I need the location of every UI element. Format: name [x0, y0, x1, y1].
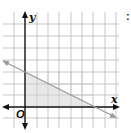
- cropped-marker: :: [126, 10, 130, 22]
- y-axis-down-arrow-icon: [22, 123, 28, 130]
- coordinate-graph: y x O: [0, 0, 131, 133]
- x-axis-left-arrow-icon: [2, 104, 9, 110]
- boundary-left-arrow-icon: [2, 61, 10, 67]
- y-axis-label: y: [28, 11, 37, 24]
- y-axis-up-arrow-icon: [22, 11, 28, 18]
- origin-label: O: [16, 108, 25, 120]
- x-axis-label: x: [110, 93, 118, 106]
